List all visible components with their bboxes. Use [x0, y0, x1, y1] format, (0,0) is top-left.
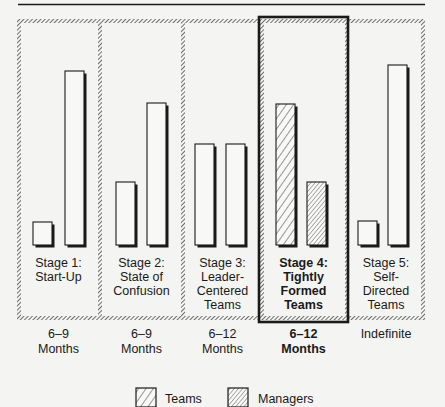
stage-4-duration: 6–12Months	[262, 327, 346, 357]
duration-line: 6–9	[100, 327, 184, 342]
duration-line: Months	[181, 342, 265, 357]
bar-managers-stage-2	[147, 103, 166, 245]
stage-label-line: Stage 3:	[181, 256, 265, 270]
duration-line: Months	[17, 342, 101, 357]
stage-label-line: Leader-	[181, 270, 265, 284]
duration-line: 6–9	[17, 327, 101, 342]
stage-label-line: Stage 5:	[344, 256, 428, 270]
stage-2-duration: 6–9Months	[100, 327, 184, 357]
duration-line: Months	[262, 342, 346, 357]
stage-3-duration: 6–12Months	[181, 327, 265, 357]
bar-teams-stage-5	[388, 65, 407, 245]
stage-label-line: Teams	[181, 298, 265, 312]
bar-managers-stage-1	[65, 71, 84, 245]
stage-4-label: Stage 4:TightlyFormedTeams	[262, 256, 346, 312]
bar-managers-stage-4	[307, 182, 326, 245]
stage-1-label: Stage 1:Start-Up	[17, 256, 101, 284]
legend-teams-swatch	[136, 388, 156, 407]
duration-line: 6–12	[262, 327, 346, 342]
stage-label-line: Teams	[344, 298, 428, 312]
stage-label-line: Self-	[344, 270, 428, 284]
duration-line: 6–12	[181, 327, 265, 342]
stage-1-duration: 6–9Months	[17, 327, 101, 357]
stage-label-line: Start-Up	[17, 270, 101, 284]
stage-label-line: Confusion	[100, 284, 184, 298]
stage-label-line: Stage 1:	[17, 256, 101, 270]
bar-teams-stage-1	[33, 222, 52, 245]
bar-teams-stage-4	[276, 104, 295, 245]
stage-label-line: State of	[100, 270, 184, 284]
stage-5-duration: Indefinite	[344, 327, 428, 342]
duration-line: Indefinite	[344, 327, 428, 342]
bar-managers-stage-5	[358, 221, 377, 245]
stage-label-line: Stage 2:	[100, 256, 184, 270]
stage-label-line: Formed	[262, 284, 346, 298]
legend-teams-label: Teams	[165, 392, 202, 406]
stage-label-line: Directed	[344, 284, 428, 298]
stage-3-label: Stage 3:Leader-CenteredTeams	[181, 256, 265, 312]
stage-label-line: Centered	[181, 284, 265, 298]
stage-5-label: Stage 5:Self-DirectedTeams	[344, 256, 428, 312]
legend-managers-swatch	[228, 388, 248, 407]
duration-line: Months	[100, 342, 184, 357]
stage-label-line: Teams	[262, 298, 346, 312]
bar-teams-stage-3	[195, 144, 214, 245]
legend-managers-label: Managers	[258, 392, 314, 406]
bar-managers-stage-3	[226, 144, 245, 245]
stage-2-label: Stage 2:State ofConfusion	[100, 256, 184, 298]
stage-label-line: Stage 4:	[262, 256, 346, 270]
stage-label-line: Tightly	[262, 270, 346, 284]
bar-teams-stage-2	[116, 182, 135, 245]
